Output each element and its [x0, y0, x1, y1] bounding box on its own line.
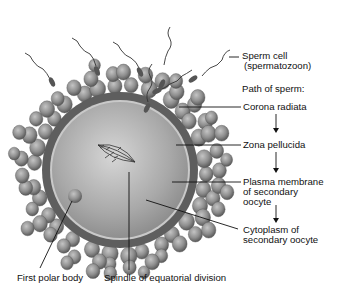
label-corona-radiata: Corona radiata [243, 102, 306, 113]
label-cytoplasm-2: secondary oocyte [243, 235, 318, 246]
label-plasma-membrane-3: oocyte [243, 197, 271, 208]
oocyte-diagram: Sperm cell (spermatozoon) Path of sperm:… [0, 0, 344, 293]
label-path-heading: Path of sperm: [242, 84, 304, 95]
label-spindle: Spindle of equatorial division [104, 273, 226, 284]
label-first-polar-body: First polar body [17, 273, 83, 284]
label-spermatozoon: (spermatozoon) [244, 61, 311, 72]
first-polar-body [68, 189, 82, 203]
oocyte-cytoplasm [52, 102, 188, 238]
label-zona-pellucida: Zona pellucida [243, 140, 305, 151]
